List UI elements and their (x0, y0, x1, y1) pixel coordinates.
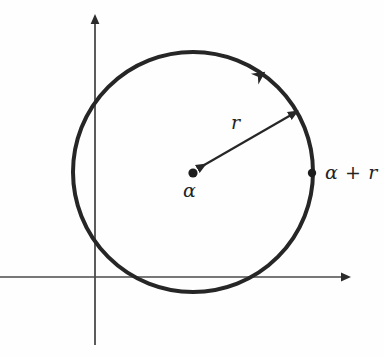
center-point-dot (188, 168, 197, 177)
points-group (188, 168, 316, 177)
radius-vector-group (199, 115, 291, 168)
figure-canvas: α r α + r (0, 0, 384, 357)
center-point-label: α (183, 181, 196, 200)
boundary-point-label: α + r (325, 163, 378, 182)
radius-vector-line (199, 115, 291, 168)
radius-label: r (231, 113, 240, 132)
axes-group (0, 23, 342, 345)
boundary-point-dot (308, 169, 316, 177)
